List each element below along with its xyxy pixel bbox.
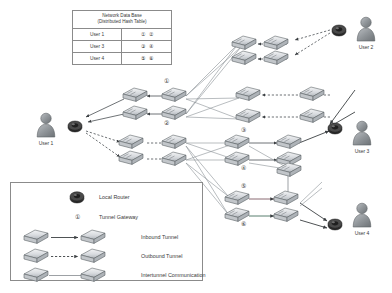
table-row: User 4 ⑤ ⑥	[73, 53, 171, 64]
router-node-gateway-1	[162, 88, 186, 101]
table-row: User 1 ① ②	[73, 29, 171, 41]
inbound-tunnel-user1	[86, 99, 124, 122]
router-node	[277, 135, 301, 148]
db-user-cell: User 1	[73, 29, 122, 40]
router-node	[119, 151, 143, 164]
legend-label-local-router: Local Router	[99, 194, 130, 200]
router-node	[274, 191, 298, 204]
legend-box: Local Router ① Tunnel Gateway	[10, 182, 203, 281]
user-3-label: User 3	[344, 148, 380, 154]
router-node-gateway-3-src	[162, 135, 186, 148]
router-node-gateway-6	[225, 208, 249, 221]
router-node-gateway-2	[162, 106, 186, 119]
user-4-label: User 4	[344, 230, 380, 236]
router-node	[123, 106, 147, 119]
db-ids-cell: ③ ④	[122, 41, 171, 52]
gateway-badge-2: ②	[164, 120, 169, 126]
network-topology-diagram: Network Data Base (Distributed Hash Tabl…	[0, 0, 392, 293]
inbound-tunnel-icon	[23, 228, 135, 246]
router-node-gateway-4-src	[162, 152, 186, 165]
router-node	[264, 51, 288, 64]
legend-label-intertunnel-communication: Intertunnel Communication	[141, 272, 205, 278]
router-node	[236, 87, 260, 100]
intertunnel-links-upper	[186, 44, 241, 119]
local-router-user-4	[328, 219, 342, 230]
gateway-id-badge: ⑥	[149, 55, 153, 61]
local-router-icon	[67, 189, 87, 205]
router-node	[236, 109, 260, 122]
gateway-id-badge: ①	[141, 31, 145, 37]
gateway-badge-6: ⑥	[241, 221, 246, 227]
db-header-line-2: (Distributed Hash Table)	[74, 19, 170, 25]
user-1-label: User 1	[28, 140, 64, 146]
outbound-tunnel-user1	[86, 131, 120, 157]
gateway-badge-1: ①	[164, 78, 169, 84]
tunnel-row-5-6	[249, 199, 274, 216]
network-database-header: Network Data Base (Distributed Hash Tabl…	[73, 11, 171, 29]
intertunnel-communication-icon	[23, 266, 135, 284]
legend-label-outbound-tunnel: Outbound Tunnel	[141, 253, 182, 259]
gateway-id-badge: ②	[149, 31, 153, 37]
gateway-badge-4: ④	[241, 165, 246, 171]
local-router-user-3	[328, 123, 342, 134]
db-ids-cell: ① ②	[122, 29, 171, 40]
outbound-tunnel-icon	[23, 247, 135, 265]
router-node-gateway-5	[225, 191, 249, 204]
legend-item-tunnel-gateway: ① Tunnel Gateway	[67, 209, 138, 225]
router-node	[123, 88, 147, 101]
router-node	[277, 163, 301, 176]
legend-label-tunnel-gateway: Tunnel Gateway	[99, 214, 138, 220]
table-row: User 3 ③ ④	[73, 41, 171, 53]
local-router-user-1	[68, 121, 82, 132]
router-node-gateway-4	[225, 152, 249, 165]
router-node	[300, 87, 324, 100]
legend-item-inbound-tunnel: Inbound Tunnel	[23, 229, 178, 245]
user-1-avatar	[37, 113, 55, 137]
legend-item-outbound-tunnel: Outbound Tunnel	[23, 248, 182, 264]
gateway-id-badge: ⑤	[141, 55, 145, 61]
user-2-avatar	[357, 17, 375, 41]
gateway-id-badge: ③	[141, 43, 145, 49]
gateway-badge-5: ⑤	[241, 183, 246, 189]
db-user-cell: User 3	[73, 41, 122, 52]
tunnel-row-3-4	[249, 143, 277, 160]
router-node	[119, 135, 143, 148]
router-node	[300, 109, 324, 122]
legend-label-inbound-tunnel: Inbound Tunnel	[141, 234, 178, 240]
legend-item-local-router: Local Router	[67, 189, 130, 205]
user-3-avatar	[353, 121, 371, 145]
router-node-gateway-3	[225, 135, 249, 148]
gateway-badge-3: ③	[241, 127, 246, 133]
user-4-avatar	[353, 203, 371, 227]
network-database-table: Network Data Base (Distributed Hash Tabl…	[72, 10, 172, 65]
db-user-cell: User 4	[73, 53, 122, 64]
tunnel-gateway-number-icon: ①	[67, 214, 87, 220]
router-node	[274, 208, 298, 221]
user-2-label: User 2	[348, 44, 384, 50]
local-router-user-2	[332, 25, 346, 36]
inbound-tunnel-user4	[300, 203, 327, 228]
router-node	[264, 36, 288, 49]
router-node	[232, 51, 256, 64]
legend-item-intertunnel-communication: Intertunnel Communication	[23, 267, 205, 283]
db-ids-cell: ⑤ ⑥	[122, 53, 171, 64]
gateway-id-badge: ④	[149, 43, 153, 49]
